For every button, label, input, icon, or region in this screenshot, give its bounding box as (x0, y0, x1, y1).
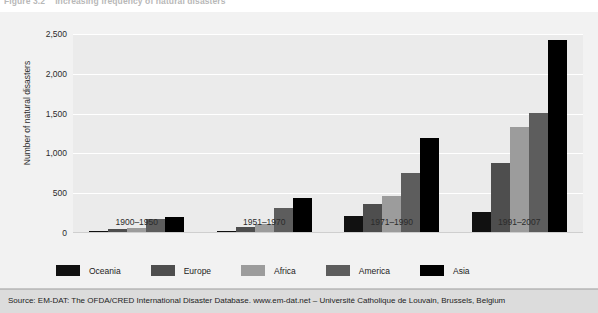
figure-number: Figure 3.2 (4, 0, 45, 6)
legend-label: America (359, 266, 390, 276)
legend-item-asia[interactable]: Asia (420, 265, 470, 276)
bar-group (73, 34, 201, 233)
y-axis-tick-label: 1,000 (7, 148, 67, 158)
y-axis-tick-label: 2,000 (7, 69, 67, 79)
chart-legend: OceaniaEuropeAfricaAmericaAsia (56, 265, 500, 276)
x-axis-tick-label: 1991–2007 (449, 217, 589, 227)
y-axis-tick-label: 0 (7, 228, 67, 238)
legend-label: Oceania (89, 266, 121, 276)
source-text: Source: EM-DAT: The OFDA/CRED Internatio… (8, 296, 505, 305)
figure-title: Figure 3.2Increasing frequency of natura… (4, 0, 226, 7)
y-axis-tick-label: 1,500 (7, 109, 67, 119)
bar-group (201, 34, 329, 233)
legend-swatch-europe (151, 265, 175, 276)
legend-item-america[interactable]: America (326, 265, 390, 276)
bar-group (456, 34, 584, 233)
source-footer: Source: EM-DAT: The OFDA/CRED Internatio… (0, 288, 598, 313)
legend-item-oceania[interactable]: Oceania (56, 265, 121, 276)
legend-swatch-america (326, 265, 350, 276)
figure-title-text: Increasing frequency of natural disaster… (55, 0, 225, 6)
y-axis-tick-label: 2,500 (7, 29, 67, 39)
bar-asia-1951-1970[interactable] (293, 198, 312, 233)
legend-item-europe[interactable]: Europe (151, 265, 211, 276)
chart-panel: Number of natural disasters 05001,0001,5… (0, 12, 598, 288)
x-axis-tick-label: 1900–1950 (67, 217, 207, 227)
plot-area (73, 34, 583, 233)
legend-swatch-asia (420, 265, 444, 276)
legend-label: Asia (453, 266, 470, 276)
bar-america-1991-2007[interactable] (529, 113, 548, 233)
legend-swatch-africa (241, 265, 265, 276)
x-axis-tick-label: 1971–1990 (322, 217, 462, 227)
bar-group (328, 34, 456, 233)
legend-label: Europe (184, 266, 211, 276)
footer-divider (0, 289, 598, 290)
legend-item-africa[interactable]: Africa (241, 265, 296, 276)
y-axis-tick-label: 500 (7, 188, 67, 198)
x-axis-tick-label: 1951–1970 (194, 217, 334, 227)
legend-label: Africa (274, 266, 296, 276)
bar-asia-1991-2007[interactable] (548, 40, 567, 233)
legend-swatch-oceania (56, 265, 80, 276)
bar-africa-1971-1990[interactable] (382, 196, 401, 233)
axis-baseline (73, 232, 583, 233)
